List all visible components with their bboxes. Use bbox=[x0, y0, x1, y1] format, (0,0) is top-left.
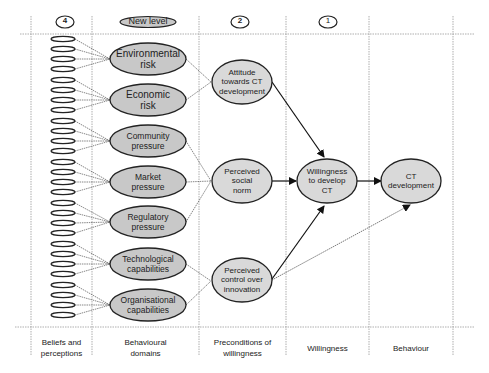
belief-node bbox=[51, 97, 75, 102]
domain-organisational-capabilities: Organisationalcapabilities bbox=[110, 289, 186, 321]
belief-connector bbox=[75, 244, 110, 264]
belief-node bbox=[51, 118, 75, 123]
belief-connector bbox=[75, 222, 110, 223]
belief-node bbox=[51, 128, 75, 133]
belief-node bbox=[51, 159, 75, 164]
belief-connector bbox=[75, 213, 110, 222]
belief-node bbox=[51, 261, 75, 266]
belief-node bbox=[51, 292, 75, 297]
belief-connector bbox=[75, 295, 110, 305]
belief-node bbox=[51, 271, 75, 276]
belief-connector bbox=[75, 121, 110, 141]
belief-node bbox=[51, 312, 75, 317]
belief-connector bbox=[75, 59, 110, 69]
column-label-preconditions: Preconditions ofwillingness bbox=[199, 337, 286, 359]
belief-node bbox=[51, 189, 75, 194]
belief-connector bbox=[75, 80, 110, 100]
belief-node bbox=[51, 210, 75, 215]
domain-market-pressure: Marketpressure bbox=[110, 166, 186, 198]
arrow-attitude-to-willingness bbox=[272, 82, 324, 157]
column-label-willingness: Willingness bbox=[286, 343, 369, 354]
belief-node bbox=[51, 148, 75, 153]
belief-node bbox=[51, 251, 75, 256]
belief-nodes bbox=[51, 36, 75, 317]
belief-connector bbox=[75, 49, 110, 59]
precondition-social-norm: Perceivedsocialnorm bbox=[212, 161, 272, 201]
belief-node bbox=[51, 282, 75, 287]
belief-connector bbox=[75, 305, 110, 315]
precondition-attitude: Attitudetowards CTdevelopment bbox=[212, 62, 272, 102]
column-label-beliefs: Beliefs andperceptions bbox=[31, 337, 92, 359]
belief-node bbox=[51, 302, 75, 307]
belief-connector bbox=[75, 222, 110, 233]
belief-node bbox=[51, 138, 75, 143]
willingness-label: Willingnessto developCT bbox=[297, 161, 357, 201]
belief-connector bbox=[75, 254, 110, 264]
belief-node bbox=[51, 200, 75, 205]
belief-node bbox=[51, 87, 75, 92]
belief-connector bbox=[75, 131, 110, 141]
belief-connector bbox=[75, 141, 110, 151]
domain-technological-capabilities: Technologicalcapabilities bbox=[110, 248, 186, 280]
precondition-perceived-control: Perceivedcontrol overinnovation bbox=[212, 260, 272, 300]
belief-node bbox=[51, 179, 75, 184]
belief-connector bbox=[75, 285, 110, 305]
behaviour-label: CTdevelopment bbox=[381, 161, 441, 201]
belief-connector bbox=[75, 264, 110, 274]
belief-connector bbox=[75, 100, 110, 110]
belief-node bbox=[51, 36, 75, 41]
belief-node bbox=[51, 77, 75, 82]
belief-node bbox=[51, 107, 75, 112]
domain-economic-risk: Economicrisk bbox=[110, 84, 186, 116]
ct-development-model-diagram: 4 New level 2 1 Environmentalrisk Econom… bbox=[0, 0, 489, 373]
belief-node bbox=[51, 220, 75, 225]
belief-node bbox=[51, 66, 75, 71]
belief-connector bbox=[75, 162, 110, 182]
domain-connectors bbox=[186, 59, 211, 305]
column-label-behaviour: Behaviour bbox=[369, 343, 453, 354]
belief-node bbox=[51, 230, 75, 235]
new-level-label: New level bbox=[120, 16, 176, 26]
belief-connector bbox=[75, 172, 110, 182]
marker-4-label: 4 bbox=[56, 16, 74, 25]
belief-connectors bbox=[75, 39, 110, 315]
marker-2-label: 2 bbox=[231, 16, 249, 25]
belief-node bbox=[51, 241, 75, 246]
belief-node bbox=[51, 169, 75, 174]
belief-connector bbox=[75, 182, 110, 192]
column-markers bbox=[56, 16, 337, 28]
column-label-behavioural-domains: Behaviouraldomains bbox=[92, 337, 199, 359]
belief-node bbox=[51, 46, 75, 51]
marker-1-label: 1 bbox=[319, 16, 337, 25]
domain-regulatory-pressure: Regulatorypressure bbox=[110, 206, 186, 238]
belief-connector bbox=[75, 203, 110, 222]
belief-connector bbox=[75, 39, 110, 59]
belief-connector bbox=[75, 90, 110, 100]
belief-node bbox=[51, 56, 75, 61]
arrow-control-to-behaviour bbox=[272, 205, 410, 280]
domain-environmental-risk: Environmentalrisk bbox=[110, 43, 186, 75]
domain-community-pressure: Communitypressure bbox=[110, 125, 186, 157]
arrow-control-to-willingness bbox=[272, 206, 324, 279]
